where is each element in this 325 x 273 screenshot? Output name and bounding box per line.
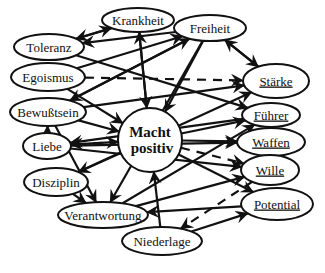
node-egoismus: Egoismus [11,63,85,91]
node-freiheit: Freiheit [174,15,246,41]
node-bewusstsein: Bewußtsein [10,98,86,126]
edge-toleranz-to-fuehrer [76,55,248,108]
edge-toleranz-to-krankheit [76,28,111,39]
node-krankheit: Krankheit [102,8,174,32]
node-label: Führer [254,108,289,123]
edge-niederlage-to-potential [191,213,247,231]
node-label: Liebe [32,139,62,154]
edge-krankheit-to-macht [139,32,147,108]
node-fuehrer: Führer [242,103,300,127]
edge-bewusstsein-to-macht [79,120,120,131]
edge-bewusstsein-to-staerke [84,85,245,107]
node-wille: Wille [241,155,299,185]
concept-map: KrankheitFreiheitToleranzEgoismusStärkeB… [0,0,325,273]
edge-disziplin-to-verantwortung [73,194,86,203]
node-verantwortung: Verantwortung [58,202,148,228]
edge-verantwortung-to-wille [136,177,244,206]
node-label: Freiheit [190,21,231,36]
node-toleranz: Toleranz [14,34,84,60]
node-label: Toleranz [26,40,72,55]
center-node-label-line1: Macht [129,124,171,140]
node-staerke: Stärke [243,64,309,98]
node-waffen: Waffen [237,128,305,156]
node-label: Stärke [259,74,292,89]
node-label: Bewußtsein [17,105,79,120]
node-label: Egoismus [22,70,73,85]
node-liebe: Liebe [23,133,71,159]
edge-macht-to-disziplin [78,153,120,172]
node-potential: Potential [241,188,313,220]
edge-staerke-to-freiheit [225,40,258,67]
concept-map-canvas: KrankheitFreiheitToleranzEgoismusStärkeB… [0,0,325,273]
node-label: Krankheit [112,13,164,28]
center-node-label-line2: positiv [131,140,174,156]
node-label: Niederlage [133,234,190,249]
node-label: Waffen [252,135,290,150]
center-node: Macht positiv [118,108,182,172]
node-label: Disziplin [32,175,80,190]
node-disziplin: Disziplin [24,168,88,196]
edge-macht-to-waffen [182,141,237,142]
node-label: Potential [254,197,301,212]
node-label: Wille [256,163,285,178]
node-label: Verantwortung [64,208,142,223]
edge-potential-to-verantwortung [147,206,241,212]
node-niederlage: Niederlage [122,227,202,255]
edge-freiheit-to-bewusstsein [70,39,189,101]
